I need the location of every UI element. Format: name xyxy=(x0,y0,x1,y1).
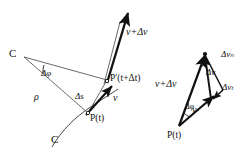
point-marker-p-prime xyxy=(105,79,108,82)
label-delta-v-t: Δvₜ xyxy=(222,83,234,92)
right-delta-phi-arc xyxy=(184,113,190,117)
right-apex-marker xyxy=(203,52,207,56)
label-rho: ρ xyxy=(34,92,39,102)
label-point-p-right: P(t) xyxy=(167,131,181,141)
radius-to-p-prime-line xyxy=(24,57,107,80)
label-delta-v: Δv xyxy=(206,68,215,77)
label-velocity-v-plus-dv-right: v+Δv xyxy=(155,79,177,89)
label-center-of-curvature: C xyxy=(9,48,16,59)
label-velocity-v-plus-dv-left: v+Δv xyxy=(126,27,148,37)
label-velocity-v-left: v xyxy=(113,93,117,103)
figure-canvas: C Δφ ρ Δs P(t) P′(t+Δt) v v+Δv C P(t) v … xyxy=(0,0,246,156)
label-point-p-prime: P′(t+Δt) xyxy=(110,74,140,84)
trajectory-curve xyxy=(52,89,118,147)
label-delta-s: Δs xyxy=(75,92,84,101)
radius-rho-line xyxy=(24,57,88,113)
label-point-p: P(t) xyxy=(90,114,104,124)
label-curve-c: C xyxy=(51,134,58,145)
label-delta-v-n: Δvₙ xyxy=(221,50,234,59)
label-delta-phi-right: Δφ xyxy=(185,103,194,111)
label-delta-phi-left: Δφ xyxy=(41,69,51,78)
velocity-vector-v xyxy=(86,86,112,115)
